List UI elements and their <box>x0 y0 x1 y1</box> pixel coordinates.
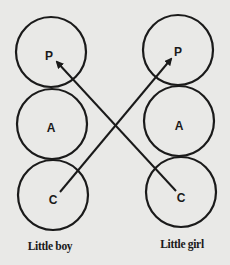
adult-letter: A <box>47 121 56 135</box>
little-girl-adult-node: A <box>144 86 214 156</box>
child-letter: C <box>177 191 186 205</box>
little-girl-column: P A C <box>143 15 216 227</box>
little-girl-child-node: C <box>146 157 216 227</box>
parent-letter: P <box>174 45 182 59</box>
ego-state-diagram: P A C P A C <box>0 0 230 265</box>
arrow-girl-child-to-boy-parent <box>57 62 176 191</box>
little-girl-label: Little girl <box>160 238 204 250</box>
child-letter: C <box>49 193 58 207</box>
little-boy-column: P A C <box>16 17 88 230</box>
little-girl-parent-node: P <box>143 15 213 85</box>
little-boy-parent-node: P <box>16 17 86 87</box>
adult-letter: A <box>175 119 184 133</box>
little-boy-label: Little boy <box>28 240 73 252</box>
parent-letter: P <box>45 49 53 63</box>
little-boy-adult-node: A <box>17 89 87 159</box>
